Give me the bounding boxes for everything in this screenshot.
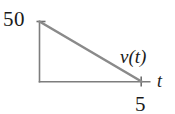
y-axis-max-label: 50 — [3, 9, 25, 30]
figure-canvas — [0, 0, 175, 114]
t-axis-label: t — [157, 72, 162, 90]
velocity-time-figure: 50 5 t v(t) — [0, 0, 175, 114]
velocity-function-label: v(t) — [120, 47, 146, 66]
x-axis-max-label: 5 — [135, 94, 146, 114]
